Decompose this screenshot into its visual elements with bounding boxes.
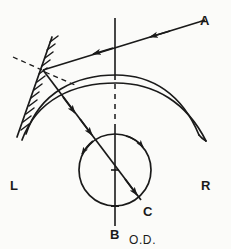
label-C: C xyxy=(143,205,153,218)
reflected-arrow-3 xyxy=(125,179,137,195)
cornea-arcs xyxy=(22,75,206,141)
label-eye-designation: O.D. xyxy=(129,234,156,246)
reflected-arrow-1 xyxy=(63,97,75,113)
incident-arrow-1 xyxy=(150,31,170,37)
label-B: B xyxy=(110,228,120,241)
pupil-arrow-left xyxy=(82,141,93,154)
cornea-outer-arc xyxy=(26,75,199,135)
label-L: L xyxy=(10,179,18,192)
incident-arrow-2 xyxy=(93,48,113,54)
label-A: A xyxy=(200,14,210,27)
pupil-arrow-right xyxy=(126,136,143,147)
retinoscope-mirror xyxy=(17,36,58,137)
optics-diagram-figure: A L R B C O.D. xyxy=(0,0,231,249)
incident-ray-from-A xyxy=(43,22,199,70)
label-R: R xyxy=(201,179,211,192)
reflected-arrow-2 xyxy=(80,119,92,135)
diagram-canvas xyxy=(0,0,231,249)
cornea-inner-arc xyxy=(22,83,206,141)
